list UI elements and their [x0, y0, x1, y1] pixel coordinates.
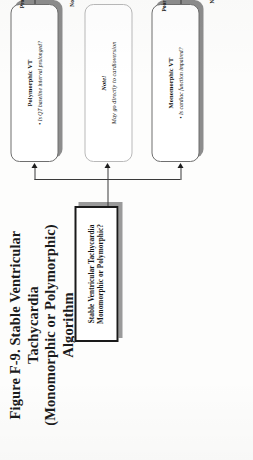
branch-label-normal-qt: Normal baseline QT interval: [68, 0, 82, 8]
connector-branch-note: [107, 167, 108, 180]
start-node-line-2: Monomorphic or Polymorphic?: [96, 224, 105, 324]
figure-title-line-2: (Monomorphic or Polymorphic): [41, 196, 59, 454]
node-monomorphic-vt: Monomorphic VT • Is cardiac function imp…: [151, 4, 199, 162]
figure-title: Figure F-9. Stable Ventricular Tachycard…: [6, 196, 77, 454]
branch-label-normal-qt-line-1: Normal baseline QT: [68, 0, 74, 7]
connector-branch-monomorphic: [180, 167, 181, 180]
note-header: Note!: [99, 75, 107, 90]
branch-label-prolonged-qt-sub: (see torsades): [32, 0, 38, 14]
branch-label-prolonged-qt-line-1: Prolonged baseline: [18, 0, 24, 8]
connector-trunk: [107, 180, 108, 206]
node-note: Note! May go directly to cardioversion: [84, 4, 132, 162]
branch-label-prolonged-qt: Prolonged baseline QT interval (see tors…: [18, 0, 38, 14]
polymorphic-vt-bullet: • Is QT baseline interval prolonged?: [36, 41, 43, 124]
start-node-line-1: Stable Ventricular Tachycardia: [87, 225, 96, 324]
start-node-stable-vt: Stable Ventricular Tachycardia Monomorph…: [74, 206, 118, 342]
node-polymorphic-vt: Polymorphic VT • Is QT baseline interval…: [10, 4, 58, 162]
polymorphic-vt-header: Polymorphic VT: [25, 60, 33, 107]
figure-title-line-1: Figure F-9. Stable Ventricular Tachycard…: [6, 196, 41, 454]
figure-page: Figure F-9. Stable Ventricular Tachycard…: [0, 0, 253, 460]
note-body: May go directly to cardioversion: [109, 42, 117, 125]
arrowhead-note: [104, 163, 110, 168]
monomorphic-vt-header: Monomorphic VT: [166, 58, 174, 109]
monomorphic-vt-bullet: • Is cardiac function impaired?: [177, 47, 184, 118]
branch-label-normal-function-line-1: Normal function: [208, 0, 214, 3]
connector-branch-polymorphic: [34, 167, 35, 180]
arrowhead-monomorphic: [177, 163, 183, 168]
branch-label-poor-ejection-fraction: Poor ejection fraction: [160, 0, 167, 14]
branch-label-normal-function: Normal function: [208, 0, 215, 10]
arrowhead-polymorphic: [31, 163, 37, 168]
branch-label-poor-ef-line-1: Poor ejection fraction: [160, 0, 166, 12]
